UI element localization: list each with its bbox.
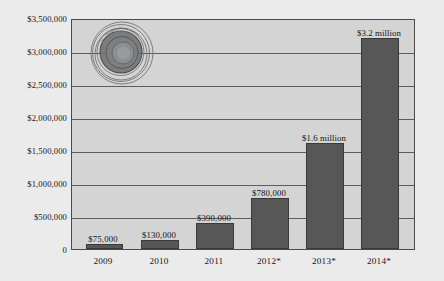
y-axis-tick-label: $2,000,000: [0, 113, 67, 123]
bar-2013: [306, 143, 344, 249]
bar-data-label-2010: $130,000: [142, 230, 176, 240]
x-axis-tick-label-2013: 2013*: [312, 256, 336, 266]
y-axis-tick-label: 0: [0, 245, 67, 255]
bar-data-label-2014: $3.2 million: [357, 28, 401, 38]
y-axis-tick-label: $1,500,000: [0, 146, 67, 156]
bar-data-label-2012: $780,000: [252, 188, 286, 198]
bar-chart: $3,500,000 $3,000,000 $2,500,000 $2,000,…: [0, 0, 444, 281]
bar-data-label-2009: $75,000: [88, 234, 117, 244]
bar-2011: [196, 223, 234, 249]
x-axis-tick-label-2010: 2010: [149, 256, 168, 266]
y-axis-tick-label: $3,500,000: [0, 14, 67, 24]
x-axis-tick-label-2011: 2011: [205, 256, 224, 266]
plot-area: [71, 19, 415, 250]
x-axis-tick-label-2012: 2012*: [257, 256, 281, 266]
bar-data-label-2013: $1.6 million: [302, 133, 346, 143]
bar-2010: [141, 240, 179, 249]
y-axis-tick-label: $3,000,000: [0, 47, 67, 57]
y-axis-tick-label: $1,000,000: [0, 179, 67, 189]
x-axis-tick-label-2014: 2014*: [367, 256, 391, 266]
bar-2009: [86, 244, 123, 249]
bar-2012: [251, 198, 289, 249]
x-axis-tick-label-2009: 2009: [93, 256, 112, 266]
y-axis-tick-label: $500,000: [0, 212, 67, 222]
bar-data-label-2011: $390,000: [197, 213, 231, 223]
bar-2014: [361, 38, 399, 249]
y-axis-tick-label: $2,500,000: [0, 80, 67, 90]
